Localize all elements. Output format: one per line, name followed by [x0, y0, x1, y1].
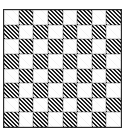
board-square-light-r5-c3	[48, 83, 63, 98]
board-square-light-r0-c4	[63, 10, 78, 25]
board-square-light-r0-c2	[33, 10, 48, 25]
board-square-light-r6-c6	[92, 98, 107, 113]
board-square-light-r4-c6	[92, 69, 107, 84]
board-square-light-r0-c6	[92, 10, 107, 25]
board-square-dark-r7-c4	[63, 112, 78, 127]
board-square-dark-r2-c1	[19, 39, 34, 54]
board-square-dark-r2-c5	[77, 39, 92, 54]
board-square-light-r4-c4	[63, 69, 78, 84]
board-square-dark-r7-c0	[4, 112, 19, 127]
board-square-dark-r3-c0	[4, 54, 19, 69]
board-square-light-r5-c1	[19, 83, 34, 98]
board-square-light-r1-c1	[19, 25, 34, 40]
board-square-light-r7-c3	[48, 112, 63, 127]
checkerboard-grid	[4, 10, 121, 127]
board-square-light-r5-c7	[106, 83, 121, 98]
board-square-light-r7-c7	[106, 112, 121, 127]
board-square-dark-r5-c0	[4, 83, 19, 98]
board-square-light-r2-c4	[63, 39, 78, 54]
board-square-light-r3-c7	[106, 54, 121, 69]
board-square-dark-r2-c7	[106, 39, 121, 54]
board-square-light-r0-c0	[4, 10, 19, 25]
board-square-light-r3-c3	[48, 54, 63, 69]
board-square-dark-r7-c2	[33, 112, 48, 127]
board-square-dark-r6-c5	[77, 98, 92, 113]
board-square-dark-r3-c6	[92, 54, 107, 69]
board-square-light-r2-c0	[4, 39, 19, 54]
board-square-dark-r0-c1	[19, 10, 34, 25]
board-square-light-r1-c3	[48, 25, 63, 40]
board-square-light-r6-c0	[4, 98, 19, 113]
board-square-light-r2-c6	[92, 39, 107, 54]
checkerboard-border	[3, 9, 122, 128]
board-square-dark-r0-c7	[106, 10, 121, 25]
board-square-dark-r7-c6	[92, 112, 107, 127]
board-square-dark-r1-c0	[4, 25, 19, 40]
board-square-dark-r4-c7	[106, 69, 121, 84]
board-square-light-r5-c5	[77, 83, 92, 98]
board-square-dark-r4-c5	[77, 69, 92, 84]
board-square-light-r7-c1	[19, 112, 34, 127]
board-square-dark-r1-c6	[92, 25, 107, 40]
board-square-dark-r5-c4	[63, 83, 78, 98]
board-square-dark-r4-c1	[19, 69, 34, 84]
board-square-light-r3-c5	[77, 54, 92, 69]
board-square-dark-r4-c3	[48, 69, 63, 84]
board-square-dark-r0-c5	[77, 10, 92, 25]
board-square-dark-r5-c6	[92, 83, 107, 98]
board-square-dark-r1-c2	[33, 25, 48, 40]
board-square-light-r7-c5	[77, 112, 92, 127]
board-square-dark-r6-c3	[48, 98, 63, 113]
board-square-light-r4-c2	[33, 69, 48, 84]
board-square-dark-r6-c1	[19, 98, 34, 113]
board-square-dark-r5-c2	[33, 83, 48, 98]
board-square-light-r3-c1	[19, 54, 34, 69]
board-square-dark-r2-c3	[48, 39, 63, 54]
board-square-light-r6-c2	[33, 98, 48, 113]
board-square-dark-r1-c4	[63, 25, 78, 40]
board-square-light-r6-c4	[63, 98, 78, 113]
board-square-light-r1-c5	[77, 25, 92, 40]
board-square-light-r2-c2	[33, 39, 48, 54]
image-canvas	[0, 0, 135, 137]
board-square-dark-r3-c4	[63, 54, 78, 69]
board-square-dark-r3-c2	[33, 54, 48, 69]
board-square-light-r4-c0	[4, 69, 19, 84]
board-square-dark-r6-c7	[106, 98, 121, 113]
board-square-dark-r0-c3	[48, 10, 63, 25]
board-square-light-r1-c7	[106, 25, 121, 40]
